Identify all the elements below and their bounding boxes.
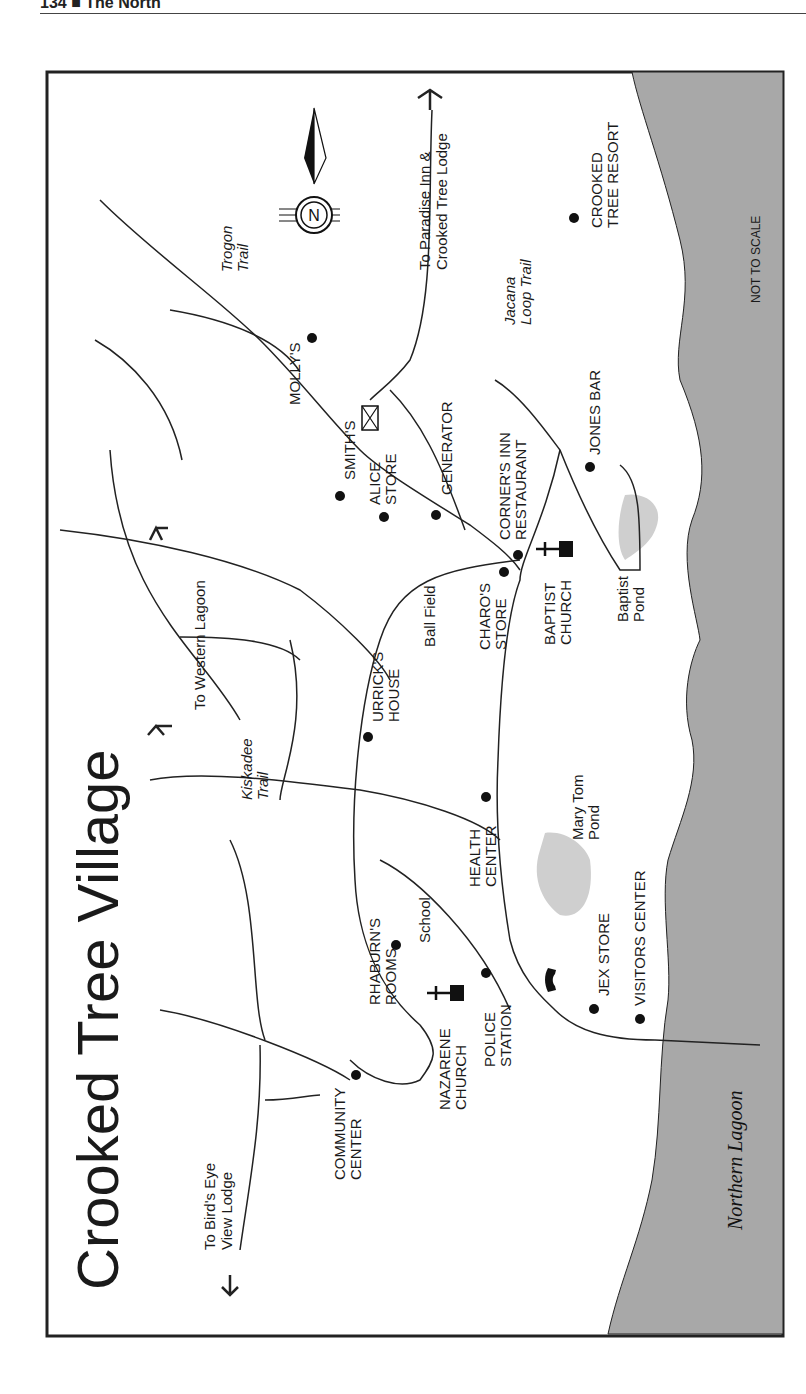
place-health-center: HEALTHCENTER xyxy=(466,825,499,887)
place-jex-store: JEX STORE xyxy=(595,913,612,996)
place-visitors-center: VISITORS CENTER xyxy=(631,870,648,1006)
place-baptist-church: BAPTISTCHURCH xyxy=(541,580,574,645)
direction-birds-eye-lodge: To Bird's EyeView Lodge xyxy=(201,1163,235,1250)
map-title: Crooked Tree Village xyxy=(65,749,130,1290)
label-school: School xyxy=(416,897,433,943)
crooked-tree-map: N Crooked Tree Village NOT TO SCALE Nort… xyxy=(0,0,806,1394)
not-to-scale-note: NOT TO SCALE xyxy=(749,216,763,303)
label-ball-field: Ball Field xyxy=(421,585,438,647)
place-generator: GENERATOR xyxy=(438,401,455,495)
post-office-icon xyxy=(362,406,378,430)
place-jones-bar: JONES BAR xyxy=(586,370,603,455)
northern-lagoon-label: Northern Lagoon xyxy=(724,1091,747,1231)
direction-western-lagoon: To Western Lagoon xyxy=(191,580,208,710)
direction-paradise-inn: To Paradise Inn &Crooked Tree Lodge xyxy=(416,133,450,270)
place-police-station: POLICESTATION xyxy=(481,1004,514,1067)
compass-letter: N xyxy=(308,207,320,224)
place-smiths: SMITH'S xyxy=(341,420,358,480)
place-mollys: MOLLY'S xyxy=(286,342,303,405)
place-corners-inn: CORNER'S INNRESTAURANT xyxy=(496,432,529,540)
